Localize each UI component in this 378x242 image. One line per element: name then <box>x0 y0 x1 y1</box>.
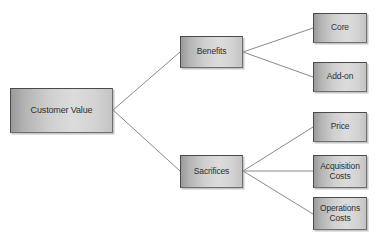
node-add-on[interactable]: Add-on <box>313 62 367 92</box>
edge-customer-value-to-benefits <box>113 52 180 110</box>
node-operations-costs[interactable]: Operations Costs <box>313 197 367 230</box>
node-acquisition-costs[interactable]: Acquisition Costs <box>313 155 367 188</box>
edge-benefits-to-add-on <box>243 52 313 77</box>
node-price[interactable]: Price <box>313 112 367 142</box>
edge-benefits-to-core <box>243 28 313 52</box>
node-benefits[interactable]: Benefits <box>180 36 243 68</box>
node-core[interactable]: Core <box>313 13 367 43</box>
node-sacrifices[interactable]: Sacrifices <box>180 155 243 188</box>
edge-sacrifices-to-operations-costs <box>243 171 313 214</box>
diagram-canvas: Customer ValueBenefitsSacrificesCoreAdd-… <box>0 0 378 242</box>
node-customer-value[interactable]: Customer Value <box>10 88 113 133</box>
edge-customer-value-to-sacrifices <box>113 110 180 171</box>
edge-sacrifices-to-price <box>243 127 313 171</box>
